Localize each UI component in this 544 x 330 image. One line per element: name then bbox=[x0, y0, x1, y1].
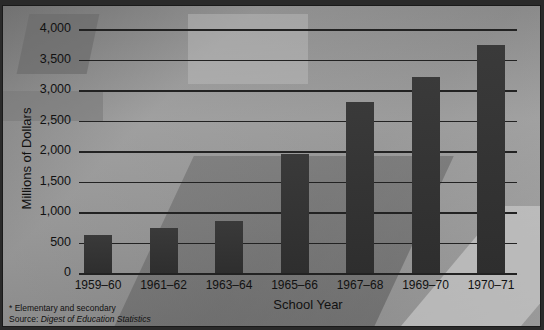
y-tick-label: 500 bbox=[5, 235, 71, 249]
gridline bbox=[79, 121, 517, 123]
x-tick-label: 1970–71 bbox=[461, 278, 521, 292]
source-label: Source: bbox=[9, 314, 38, 324]
bar bbox=[412, 77, 440, 273]
source-title: Digest of Education Statistics bbox=[41, 314, 151, 324]
bar bbox=[215, 221, 243, 273]
background-photo-wall bbox=[188, 14, 308, 84]
chart-frame: 05001,0001,5002,0002,5003,0003,5004,000 … bbox=[2, 5, 541, 327]
x-tick-label: 1963–64 bbox=[199, 278, 259, 292]
x-tick-label: 1961–62 bbox=[134, 278, 194, 292]
x-tick-label: 1969–70 bbox=[396, 278, 456, 292]
gridline bbox=[79, 29, 517, 31]
gridline bbox=[79, 151, 517, 153]
y-tick-label: 2,500 bbox=[5, 113, 71, 127]
gridline bbox=[79, 273, 517, 275]
x-tick-label: 1959–60 bbox=[68, 278, 128, 292]
y-tick-label: 2,000 bbox=[5, 143, 71, 157]
gridline bbox=[79, 60, 517, 62]
y-tick-label: 4,000 bbox=[5, 21, 71, 35]
x-axis-label: School Year bbox=[233, 297, 383, 312]
y-tick-label: 0 bbox=[5, 265, 71, 279]
bar bbox=[281, 154, 309, 273]
bar bbox=[477, 45, 505, 273]
bar bbox=[84, 235, 112, 273]
footnote-note: * Elementary and secondary bbox=[9, 303, 116, 313]
x-tick-label: 1965–66 bbox=[265, 278, 325, 292]
x-tick-label: 1967–68 bbox=[330, 278, 390, 292]
bar bbox=[150, 228, 178, 273]
footnote-source: Source: Digest of Education Statistics bbox=[9, 314, 151, 324]
gridline bbox=[79, 90, 517, 92]
y-tick-label: 3,500 bbox=[5, 52, 71, 66]
bar bbox=[346, 102, 374, 273]
y-axis-label: Millions of Dollars bbox=[19, 94, 34, 224]
y-tick-label: 1,000 bbox=[5, 204, 71, 218]
y-tick-label: 1,500 bbox=[5, 174, 71, 188]
y-tick-label: 3,000 bbox=[5, 82, 71, 96]
